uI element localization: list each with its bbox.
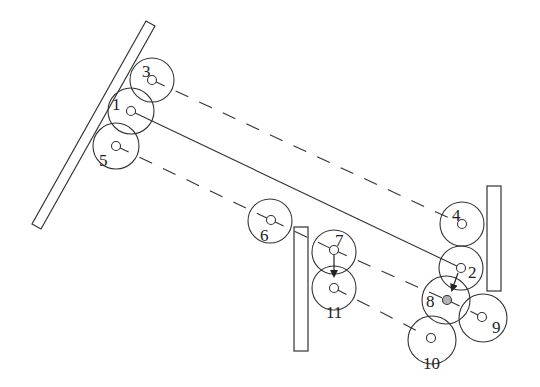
dashed-link-5-6	[116, 146, 271, 220]
pivot-dot	[127, 107, 136, 116]
node-label: 7	[335, 231, 344, 250]
wall-right	[487, 186, 501, 291]
node-4: 4	[440, 202, 484, 246]
pivot-dot	[478, 313, 487, 322]
node-label: 2	[468, 263, 477, 282]
node-label: 4	[452, 206, 461, 225]
pivot-dot	[427, 334, 436, 343]
node-8: 8	[422, 276, 470, 324]
node-label: 6	[260, 226, 269, 245]
pivot-dot	[330, 284, 339, 293]
node-label: 3	[142, 62, 151, 81]
dashed-link-11-10	[334, 288, 431, 338]
node-label: 10	[423, 354, 440, 373]
node-label: 5	[99, 151, 108, 170]
node-9: 9	[459, 294, 507, 342]
diagram-svg: 1234567891011	[0, 0, 540, 387]
node-3: 3	[130, 58, 174, 102]
node-label: 8	[426, 292, 435, 311]
node-label: 11	[326, 303, 342, 322]
mechanism-diagram: 1234567891011	[0, 0, 540, 387]
node-1: 1	[108, 88, 154, 134]
node-label: 9	[492, 318, 501, 337]
wall-middle	[294, 227, 308, 351]
node-10: 10	[408, 316, 456, 373]
node-6: 6	[248, 199, 292, 245]
highlighted-pivot-dot	[443, 296, 452, 305]
arrow-2-8-icon	[452, 273, 458, 290]
dashed-link-3-4	[152, 80, 462, 224]
node-label: 1	[112, 95, 121, 114]
wall-left	[32, 21, 155, 229]
pivot-dot	[112, 142, 121, 151]
pivot-dot	[267, 216, 276, 225]
node-5: 5	[93, 123, 139, 170]
node-2: 2	[439, 246, 483, 290]
pivot-dot	[457, 264, 466, 273]
